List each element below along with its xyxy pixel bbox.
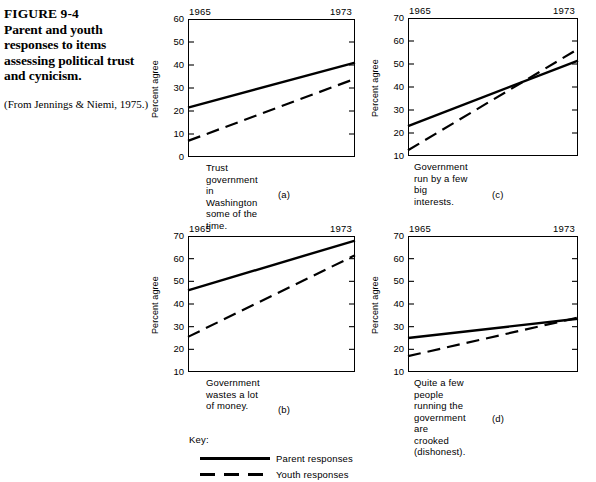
y-tick-label: 60 bbox=[382, 36, 404, 46]
y-axis-title: Percent agree bbox=[370, 276, 380, 334]
y-tick-label: 50 bbox=[162, 276, 184, 286]
series-line-parent bbox=[408, 319, 578, 338]
legend-item-parent-label: Parent responses bbox=[276, 453, 353, 464]
series-line-youth bbox=[188, 255, 355, 337]
y-tick-label: 20 bbox=[382, 344, 404, 354]
y-tick-label: 20 bbox=[382, 128, 404, 138]
y-tick-label: 10 bbox=[162, 129, 184, 139]
series-line-youth bbox=[188, 79, 355, 141]
series-line-parent bbox=[408, 61, 578, 127]
legend-item-youth: Youth responses bbox=[200, 466, 419, 482]
plot-lines bbox=[408, 18, 578, 156]
y-tick-label: 30 bbox=[382, 322, 404, 332]
legend-title: Key: bbox=[189, 434, 419, 445]
y-axis-title: Percent agree bbox=[150, 60, 160, 118]
figure-caption-text: Parent and youth responses to items asse… bbox=[4, 22, 156, 84]
series-line-youth bbox=[408, 49, 578, 150]
series-line-youth bbox=[408, 318, 578, 357]
figure-number: FIGURE 9-4 bbox=[4, 6, 162, 22]
panel-letter: (a) bbox=[278, 189, 290, 200]
series-line-parent bbox=[188, 241, 355, 291]
x-tick-label-end: 1973 bbox=[553, 6, 575, 16]
y-axis-title: Percent agree bbox=[370, 59, 380, 117]
series-line-parent bbox=[188, 63, 355, 108]
dashed-line-swatch-icon bbox=[200, 469, 270, 479]
panel-description: Quite a few people running the governmen… bbox=[414, 377, 466, 458]
x-tick-label-start: 1965 bbox=[409, 6, 431, 16]
panel-letter: (b) bbox=[278, 404, 290, 415]
y-axis-title: Percent agree bbox=[150, 276, 160, 334]
panel-description: Government run by a few big interests. bbox=[414, 161, 468, 207]
y-tick-label: 30 bbox=[162, 83, 184, 93]
y-tick-label: 20 bbox=[162, 106, 184, 116]
solid-line-swatch-icon bbox=[200, 453, 270, 463]
y-tick-label: 40 bbox=[382, 82, 404, 92]
plot-lines bbox=[188, 19, 355, 157]
x-tick-label-start: 1965 bbox=[189, 7, 211, 17]
y-tick-label: 30 bbox=[382, 105, 404, 115]
y-tick-label: 60 bbox=[162, 254, 184, 264]
y-tick-label: 0 bbox=[162, 152, 184, 162]
x-tick-label-start: 1965 bbox=[409, 224, 431, 234]
x-tick-label-end: 1973 bbox=[330, 224, 352, 234]
y-tick-label: 40 bbox=[162, 299, 184, 309]
panel-description: Government wastes a lot of money. bbox=[206, 377, 260, 412]
y-tick-label: 20 bbox=[162, 344, 184, 354]
figure-source-citation: (From Jennings & Niemi, 1975.) bbox=[4, 98, 162, 111]
y-tick-label: 10 bbox=[162, 367, 184, 377]
y-tick-label: 10 bbox=[382, 367, 404, 377]
y-tick-label: 60 bbox=[162, 14, 184, 24]
y-tick-label: 70 bbox=[162, 231, 184, 241]
panel-description: Trust government in Washington some of t… bbox=[206, 162, 258, 231]
panel-letter: (c) bbox=[492, 189, 504, 200]
figure-caption-block: FIGURE 9-4 Parent and youth responses to… bbox=[4, 6, 162, 111]
plot-lines bbox=[188, 236, 355, 372]
y-tick-label: 70 bbox=[382, 13, 404, 23]
x-tick-label-end: 1973 bbox=[330, 7, 352, 17]
legend-item-youth-label: Youth responses bbox=[276, 469, 349, 480]
x-tick-label-end: 1973 bbox=[553, 224, 575, 234]
y-tick-label: 50 bbox=[162, 37, 184, 47]
legend-item-parent: Parent responses bbox=[200, 450, 419, 466]
panel-letter: (d) bbox=[492, 413, 504, 424]
y-tick-label: 50 bbox=[382, 276, 404, 286]
y-tick-label: 60 bbox=[382, 254, 404, 264]
plot-lines bbox=[408, 236, 578, 372]
y-tick-label: 70 bbox=[382, 231, 404, 241]
y-tick-label: 50 bbox=[382, 59, 404, 69]
legend-key: Key: Parent responses Youth responses bbox=[189, 434, 419, 482]
y-tick-label: 30 bbox=[162, 322, 184, 332]
y-tick-label: 40 bbox=[162, 60, 184, 70]
x-tick-label-start: 1965 bbox=[189, 224, 211, 234]
y-tick-label: 10 bbox=[382, 151, 404, 161]
y-tick-label: 40 bbox=[382, 299, 404, 309]
